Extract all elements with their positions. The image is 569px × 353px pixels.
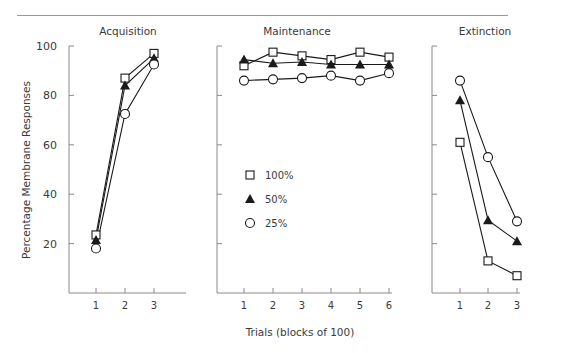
- y-tick-label: 40: [43, 188, 57, 201]
- legend-marker-100pct: [246, 171, 254, 179]
- data-point-25pct: [150, 60, 159, 69]
- data-point-25pct: [356, 76, 365, 85]
- data-point-25pct: [513, 217, 522, 226]
- chart-canvas: Percentage Membrane Responses20406080100…: [0, 0, 569, 353]
- y-tick-label: 80: [43, 89, 57, 102]
- y-tick-label: 60: [43, 139, 57, 152]
- panel-title: Acquisition: [99, 25, 157, 37]
- x-tick-label: 2: [122, 300, 128, 311]
- data-point-50pct: [455, 95, 465, 104]
- x-tick-label: 1: [93, 300, 99, 311]
- chart-figure: Percentage Membrane Responses20406080100…: [0, 0, 569, 353]
- x-tick-label: 4: [328, 300, 334, 311]
- data-point-25pct: [298, 74, 307, 83]
- data-point-25pct: [92, 244, 101, 253]
- legend-label: 25%: [265, 218, 287, 229]
- data-point-100pct: [269, 48, 277, 56]
- data-point-25pct: [269, 75, 278, 84]
- legend-label: 50%: [265, 194, 287, 205]
- legend-marker-50pct: [245, 194, 255, 203]
- x-tick-label: 2: [485, 300, 491, 311]
- data-point-25pct: [385, 69, 394, 78]
- data-point-25pct: [240, 76, 249, 85]
- y-tick-label: 100: [36, 40, 57, 53]
- x-tick-label: 3: [299, 300, 305, 311]
- data-point-25pct: [327, 71, 336, 80]
- data-point-50pct: [512, 236, 522, 245]
- x-tick-label: 3: [514, 300, 520, 311]
- panel-title: Extinction: [459, 25, 511, 37]
- data-point-25pct: [484, 153, 493, 162]
- x-tick-label: 3: [151, 300, 157, 311]
- series-line-25pct: [244, 73, 389, 80]
- x-tick-label: 1: [241, 300, 247, 311]
- data-point-100pct: [456, 138, 464, 146]
- legend-marker-25pct: [246, 219, 255, 228]
- data-point-25pct: [456, 76, 465, 85]
- data-point-100pct: [484, 257, 492, 265]
- data-point-50pct: [483, 215, 493, 224]
- series-line-25pct: [96, 65, 154, 249]
- legend-label: 100%: [265, 170, 294, 181]
- data-point-100pct: [356, 48, 364, 56]
- x-tick-label: 2: [270, 300, 276, 311]
- x-tick-label: 1: [457, 300, 463, 311]
- data-point-25pct: [121, 109, 130, 118]
- y-axis-label: Percentage Membrane Responses: [20, 81, 32, 259]
- x-tick-label: 5: [357, 300, 363, 311]
- data-point-100pct: [513, 272, 521, 280]
- series-line-100pct: [460, 142, 517, 275]
- series-line-25pct: [460, 81, 517, 222]
- x-axis-label: Trials (blocks of 100): [245, 326, 355, 338]
- x-tick-label: 6: [386, 300, 392, 311]
- series-line-50pct: [244, 60, 389, 65]
- data-point-50pct: [239, 55, 249, 64]
- y-tick-label: 20: [43, 238, 57, 251]
- panel-title: Maintenance: [263, 25, 331, 37]
